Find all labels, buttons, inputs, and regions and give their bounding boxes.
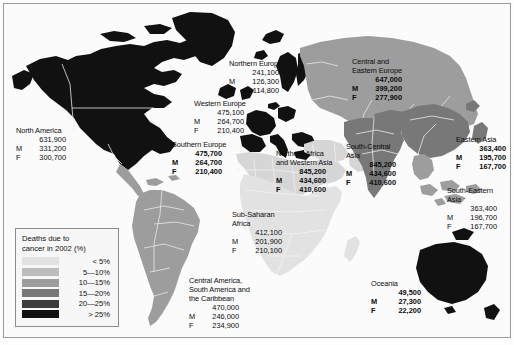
legend-label-5-10: 5—10%: [59, 268, 112, 277]
region-annotation-north-america: North America 631,900 M331,200 F300,700: [16, 126, 66, 162]
map-legend: Deaths due to cancer in 2002 (%) < 5% 5—…: [15, 228, 119, 327]
legend-label-10-15: 10—15%: [59, 278, 112, 287]
legend-title-line-1: Deaths due to: [22, 234, 112, 244]
legend-row-15-20: 15—20%: [22, 288, 112, 299]
legend-row-5-10: 5—10%: [22, 267, 112, 278]
legend-row-gt25: > 25%: [22, 309, 112, 320]
legend-row-10-15: 10—15%: [22, 277, 112, 288]
region-annotation-central-south-america-caribbean: Central America, South America and the C…: [189, 276, 250, 331]
legend-label-20-25: 20—25%: [59, 299, 112, 308]
legend-row-lt5: < 5%: [22, 256, 112, 267]
legend-swatch-lt5: [22, 257, 59, 265]
region-annotation-northern-africa-western-asia: Northern Africa and Western Asia 845,200…: [276, 149, 332, 194]
region-annotation-eastern-asia: Eastern Asia 363,400 M195,700 F167,700: [456, 135, 506, 171]
region-annotation-oceania: Oceania 49,500 M27,300 F22,200: [371, 279, 421, 315]
legend-title-line-2: cancer in 2002 (%): [22, 244, 112, 254]
world-map-panel: North America 631,900 M331,200 F300,700 …: [3, 3, 511, 338]
legend-swatch-gt25: [22, 310, 59, 318]
region-annotation-northern-europe: Northern Europe 241,100 M126,300 F114,80…: [229, 59, 282, 95]
legend-swatch-20-25: [22, 300, 59, 308]
legend-label-gt25: > 25%: [59, 310, 112, 319]
legend-swatch-5-10: [22, 268, 59, 276]
figure-root: North America 631,900 M331,200 F300,700 …: [0, 0, 514, 345]
region-annotation-south-central-asia: South-Central Asia 845,200 M434,600 F410…: [346, 142, 396, 187]
region-annotation-southern-europe: Southern Europe 475,700 M264,700 F210,40…: [172, 140, 226, 176]
region-annotation-western-europe: Western Europe 475,100 M264,700 F210,400: [194, 99, 246, 135]
legend-swatch-10-15: [22, 279, 59, 287]
region-annotation-central-eastern-europe: Central and Eastern Europe 647,000 M399,…: [352, 57, 402, 102]
legend-label-15-20: 15—20%: [59, 289, 112, 298]
legend-label-lt5: < 5%: [59, 257, 112, 266]
legend-title: Deaths due to cancer in 2002 (%): [22, 234, 112, 253]
region-annotation-south-eastern-asia: South-Eastern Asia 363,400 M196,700 F167…: [447, 186, 497, 231]
legend-row-20-25: 20—25%: [22, 299, 112, 310]
region-annotation-sub-saharan-africa: Sub-Saharan Africa 412,100 M201,900 F210…: [232, 210, 282, 255]
legend-swatch-15-20: [22, 289, 59, 297]
